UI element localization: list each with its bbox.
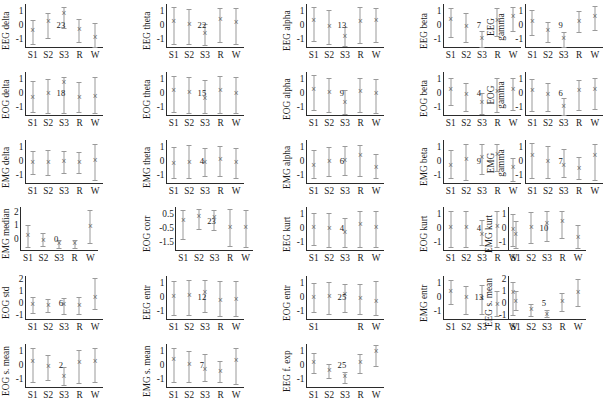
x-tick-label: S1 <box>446 254 456 263</box>
error-bar-cap <box>187 77 192 78</box>
error-bar-cap <box>30 112 35 113</box>
x-tick-label: W <box>574 323 583 332</box>
error-bar-cap <box>576 225 581 226</box>
panel-annotation: 13 <box>475 293 484 302</box>
data-point-marker: × <box>464 23 469 31</box>
panel-ylabel: EOG s. mean <box>2 344 11 398</box>
error-bar-cap <box>327 314 332 315</box>
x-tick-label: R <box>72 254 78 263</box>
error-bar-cap <box>77 19 82 20</box>
y-tick-label: 0 <box>19 21 25 30</box>
error-bar-cap <box>228 246 233 247</box>
error-bar-cap <box>46 355 51 356</box>
x-tick-label: S2 <box>461 323 471 332</box>
y-tick-label: 1 <box>437 75 443 84</box>
y-tick-label: -1 <box>157 376 166 385</box>
x-tick-label: S1 <box>309 119 319 128</box>
error-bar-cap <box>448 247 453 248</box>
y-tick-label: -1 <box>297 172 306 181</box>
y-tick-label: 0 <box>518 89 524 98</box>
data-point-marker: × <box>464 91 469 99</box>
x-tick-label: S3 <box>59 391 69 400</box>
data-point-marker: × <box>479 35 484 43</box>
x-tick-label: S3 <box>210 254 220 263</box>
panel-plot-area: 10-1×S1×S2×S3×R×W12 <box>166 276 244 334</box>
y-tick-label: 1 <box>160 143 166 152</box>
error-bar-cap <box>234 348 239 349</box>
x-tick-label: S3 <box>542 323 552 332</box>
x-tick-label: R <box>217 51 223 60</box>
error-bar-cap <box>448 150 453 151</box>
error-bar-cap <box>234 148 239 149</box>
panel-plot-area: 210-1×S1×S2×S3×R×W5 <box>508 276 586 334</box>
panel-plot-area: 10-1×S1×S2×S3×R×W4 <box>306 207 384 265</box>
x-tick-label: R <box>559 323 565 332</box>
error-bar-cap <box>448 37 453 38</box>
x-tick-label: R <box>357 391 363 400</box>
x-tick-label: S3 <box>54 254 64 263</box>
error-bar-cap <box>311 75 316 76</box>
error-bar-cap <box>202 80 207 81</box>
data-point-marker: × <box>46 302 51 310</box>
x-tick-label: S1 <box>309 51 319 60</box>
error-bar-cap <box>545 83 550 84</box>
data-point-marker: × <box>234 159 239 167</box>
x-tick-label: W <box>372 119 381 128</box>
y-tick-label: 1 <box>518 75 524 84</box>
x-tick-label: W <box>241 254 250 263</box>
data-point-marker: × <box>327 89 332 97</box>
x-tick-label: S2 <box>543 187 553 196</box>
error-bar-cap <box>61 173 66 174</box>
data-point-marker: × <box>561 103 566 111</box>
y-tick-label: 2 <box>14 208 20 217</box>
error-bar <box>173 348 174 383</box>
error-bar-cap <box>187 315 192 316</box>
y-tick-label: -0.5 <box>159 224 175 233</box>
x-tick-label: S1 <box>23 254 33 263</box>
x-tick-label: S2 <box>43 323 53 332</box>
x-tick-label: S1 <box>511 254 521 263</box>
x-tick-label: S3 <box>340 254 350 263</box>
x-tick-label: R <box>357 254 363 263</box>
error-bar-cap <box>243 247 248 248</box>
panel-ylabel: EMG theta <box>143 140 152 194</box>
error-bar-cap <box>311 283 316 284</box>
y-tick-label: 2 <box>502 276 508 285</box>
error-bar-cap <box>187 178 192 179</box>
x-tick-label: W <box>232 119 241 128</box>
panel-plot-area: 10-1×S1×S2×S3×R×W7 <box>525 140 603 198</box>
x-tick-label: S2 <box>194 254 204 263</box>
y-tick-label: -1 <box>434 104 443 113</box>
error-bar-cap <box>171 7 176 8</box>
data-point-marker: × <box>93 294 98 302</box>
error-bar-cap <box>234 316 239 317</box>
panel-ylabel: EMG alpha <box>283 140 292 194</box>
error-bar-cap <box>592 6 597 7</box>
panel-plot-area: 10-1×S1×××R×W25 <box>306 276 384 334</box>
data-point-marker: × <box>25 232 30 240</box>
panel-annotation: 4 <box>340 224 344 233</box>
data-point-marker: × <box>464 156 469 164</box>
x-tick-label: W <box>372 187 381 196</box>
x-tick-label: S3 <box>340 391 350 400</box>
y-tick-label: 1 <box>437 279 443 288</box>
error-bar-cap <box>374 345 379 346</box>
panel-annotation: 12 <box>198 293 207 302</box>
error-bar-cap <box>464 13 469 14</box>
data-point-marker: × <box>342 98 347 106</box>
x-tick-label: S2 <box>324 254 334 263</box>
x-tick-label: R <box>76 323 82 332</box>
data-point-marker: × <box>560 298 565 306</box>
error-bar-cap <box>93 47 98 48</box>
error-bar-cap <box>577 110 582 111</box>
error-bar-cap <box>218 8 223 9</box>
panel-annotation: 25 <box>338 361 347 370</box>
error-bar-cap <box>479 47 484 48</box>
error-bar-cap <box>342 284 347 285</box>
error-bar-cap <box>93 348 98 349</box>
error-bar-cap <box>181 210 186 211</box>
y-tick-label: 1 <box>502 210 508 219</box>
error-bar-cap <box>374 211 379 212</box>
error-bar-cap <box>342 146 347 147</box>
error-bar-cap <box>46 79 51 80</box>
